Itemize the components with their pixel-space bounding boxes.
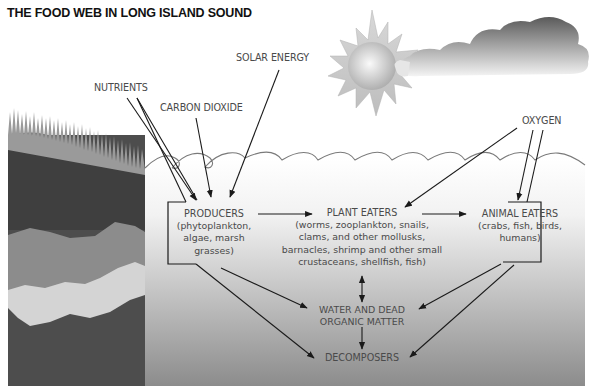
- label-solar-energy: SOLAR ENERGY: [236, 52, 309, 63]
- label-nutrients: NUTRIENTS: [94, 82, 148, 93]
- shore-cross-section: [8, 108, 145, 386]
- producers-line-2: algae, marsh: [170, 232, 258, 244]
- cloud-icon: [402, 17, 589, 76]
- producers-line-1: (phytoplankton,: [170, 220, 258, 232]
- animal-eaters-line-1: (crabs, fish, birds,: [470, 220, 570, 232]
- node-animal-eaters: ANIMAL EATERS (crabs, fish, birds, human…: [470, 208, 570, 245]
- diagram-title: THE FOOD WEB IN LONG ISLAND SOUND: [7, 6, 252, 20]
- label-oxygen: OXYGEN: [522, 115, 561, 126]
- animal-eaters-line-2: humans): [470, 232, 570, 244]
- plant-eaters-line-1: (worms, zooplankton, snails,: [276, 219, 448, 231]
- plant-eaters-line-3: barnacles, shrimp and other small: [276, 244, 448, 256]
- water-dead-matter-line-1: WATER AND DEAD: [300, 304, 424, 316]
- producers-heading: PRODUCERS: [170, 208, 258, 220]
- plant-eaters-line-4: crustaceans, shellfish, fish): [276, 256, 448, 268]
- label-carbon-dioxide: CARBON DIOXIDE: [160, 102, 243, 113]
- food-web-diagram: THE FOOD WEB IN LONG ISLAND SOUND SOLAR …: [0, 0, 593, 389]
- animal-eaters-heading: ANIMAL EATERS: [470, 208, 570, 220]
- node-producers: PRODUCERS (phytoplankton, algae, marsh g…: [170, 208, 258, 257]
- node-plant-eaters: PLANT EATERS (worms, zooplankton, snails…: [276, 207, 448, 268]
- producers-line-3: grasses): [170, 245, 258, 257]
- water-dead-matter-line-2: ORGANIC MATTER: [300, 316, 424, 328]
- node-water-dead-matter: WATER AND DEAD ORGANIC MATTER: [300, 304, 424, 328]
- node-decomposers: DECOMPOSERS: [310, 352, 414, 364]
- decomposers-heading: DECOMPOSERS: [310, 352, 414, 364]
- plant-eaters-heading: PLANT EATERS: [276, 207, 448, 219]
- plant-eaters-line-2: clams, and other mollusks,: [276, 231, 448, 243]
